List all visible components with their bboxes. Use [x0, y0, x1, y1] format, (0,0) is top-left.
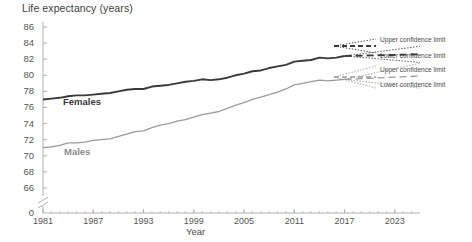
projection-series — [345, 46, 420, 88]
legend-swatches — [334, 39, 376, 88]
plot-area — [0, 0, 472, 242]
axes — [38, 22, 420, 213]
life-expectancy-chart: Life expectancy (years) 0666870727476788… — [0, 0, 472, 242]
data-series — [43, 56, 345, 148]
